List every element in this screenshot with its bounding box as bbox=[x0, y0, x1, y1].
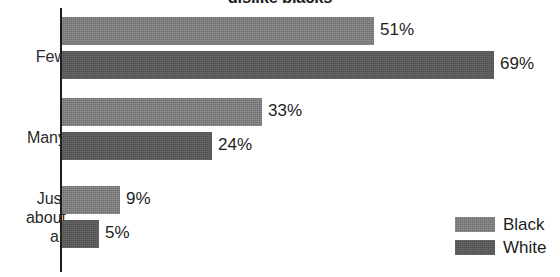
bar-few-white bbox=[62, 51, 494, 79]
value-label-few-black: 51% bbox=[380, 20, 414, 40]
legend-label-white: White bbox=[503, 237, 546, 258]
value-label-many-black: 33% bbox=[268, 101, 302, 121]
bar-many-white bbox=[62, 132, 212, 160]
bar-many-black bbox=[62, 98, 262, 126]
bar-chart: dislike blacks Few Many Just about all 5… bbox=[0, 0, 560, 277]
value-label-just-about-all-black: 9% bbox=[126, 189, 151, 209]
value-label-many-white: 24% bbox=[218, 135, 252, 155]
legend-label-black: Black bbox=[503, 214, 545, 235]
bar-few-black bbox=[62, 17, 374, 45]
legend-swatch-black-icon bbox=[455, 217, 495, 232]
bar-just-about-all-white bbox=[62, 220, 99, 248]
legend-swatch-white-icon bbox=[455, 240, 495, 255]
category-label-many: Many bbox=[27, 128, 66, 147]
bar-just-about-all-black bbox=[62, 186, 120, 214]
value-label-just-about-all-white: 5% bbox=[105, 223, 130, 243]
value-label-few-white: 69% bbox=[500, 54, 534, 74]
chart-title: dislike blacks bbox=[0, 0, 560, 7]
category-label-just-about-all: Just about all bbox=[26, 189, 66, 246]
